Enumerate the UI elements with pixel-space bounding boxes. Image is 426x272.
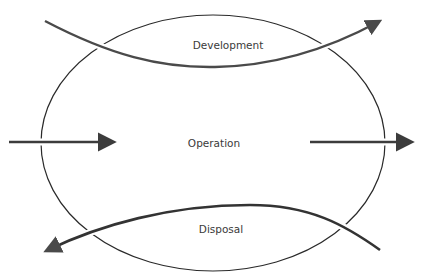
disposal-label: Disposal <box>199 223 243 235</box>
development-label: Development <box>193 39 264 51</box>
operation-label: Operation <box>188 137 240 149</box>
